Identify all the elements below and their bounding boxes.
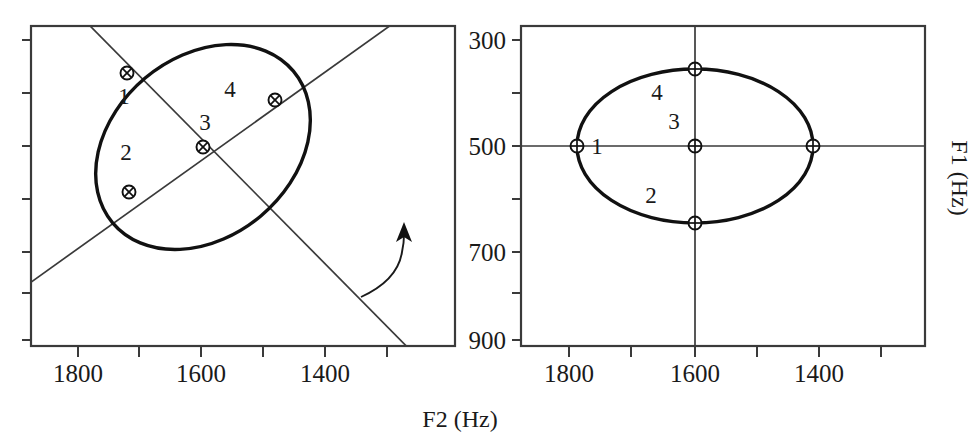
right-marker-2-bottom <box>689 217 702 230</box>
left-marker-2 <box>123 186 136 199</box>
right-point-label-3: 3 <box>668 109 680 134</box>
left-major-axis-descending <box>20 0 430 370</box>
right-marker-3-center <box>689 140 702 153</box>
left-principal-axes <box>20 0 440 370</box>
left-x-ticks <box>78 346 387 357</box>
annotation-arrow-curve <box>361 235 404 297</box>
right-x-label-1400: 1400 <box>794 360 844 387</box>
left-panel: 1 2 3 4 1800 1600 1400 <box>20 0 455 387</box>
right-panel: 1 2 3 4 300 500 700 900 1800 1600 1400 F… <box>469 26 974 387</box>
right-plot-frame <box>521 26 925 346</box>
formant-ellipse-figure: 1 2 3 4 1800 1600 1400 <box>0 0 975 445</box>
right-y-label-900: 900 <box>469 327 507 354</box>
left-point-label-2: 2 <box>120 140 132 165</box>
annotation-arrow <box>361 222 412 297</box>
right-y-label-700: 700 <box>469 239 507 266</box>
left-y-ticks <box>22 40 31 340</box>
right-point-label-4: 4 <box>651 80 663 105</box>
right-point-label-2: 2 <box>645 183 657 208</box>
right-y-label-300: 300 <box>469 27 507 54</box>
left-marker-1 <box>121 67 134 80</box>
right-x-label-1800: 1800 <box>544 360 594 387</box>
f2-axis-title: F2 (Hz) <box>422 406 497 432</box>
left-x-label-1400: 1400 <box>300 360 350 387</box>
right-x-ticks <box>569 346 881 357</box>
left-marker-3-center <box>197 141 210 154</box>
left-x-label-1600: 1600 <box>176 360 226 387</box>
right-marker-5-right <box>807 140 820 153</box>
f1-axis-title: F1 (Hz) <box>947 140 973 215</box>
right-y-ticks <box>512 40 521 340</box>
left-x-label-1800: 1800 <box>53 360 103 387</box>
right-y-label-500: 500 <box>469 133 507 160</box>
left-point-label-4: 4 <box>224 77 236 102</box>
right-marker-4-top <box>689 63 702 76</box>
figure-root: 1 2 3 4 1800 1600 1400 <box>0 0 975 445</box>
left-marker-4 <box>269 94 282 107</box>
left-point-label-1: 1 <box>118 84 130 109</box>
right-marker-1-left <box>571 140 584 153</box>
right-x-label-1600: 1600 <box>670 360 720 387</box>
right-point-label-1: 1 <box>591 134 603 159</box>
left-plot-frame <box>31 26 455 346</box>
left-point-label-3: 3 <box>199 110 211 135</box>
